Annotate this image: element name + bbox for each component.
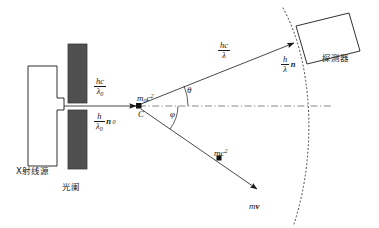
incident-energy-denominator-sub: 0 bbox=[100, 90, 103, 96]
incident-momentum-vector-sub: 0 bbox=[112, 119, 115, 125]
rest-energy-label: m0c2 bbox=[137, 88, 154, 104]
incident-momentum-denominator-sub: 0 bbox=[100, 125, 103, 131]
scattered-energy-numerator: hc bbox=[218, 41, 230, 50]
incident-momentum-vector: n bbox=[106, 117, 111, 126]
electron-energy-label: mc2 bbox=[214, 143, 228, 159]
scattered-energy-label: hc λ bbox=[218, 41, 230, 59]
electron-momentum-vector: v bbox=[256, 201, 260, 211]
incident-energy-numerator: hc bbox=[94, 77, 106, 86]
figure-vector-layer bbox=[0, 0, 379, 228]
scattered-momentum-denominator: λ bbox=[283, 64, 287, 74]
rest-energy-exponent: 2 bbox=[151, 93, 154, 99]
angle-phi-label: φ bbox=[170, 110, 175, 119]
detector-caption: 探测器 bbox=[322, 54, 350, 63]
collimator-plates bbox=[68, 44, 87, 169]
compton-scattering-figure: hc λ0 h λ0 n0 m0c2 C θ φ hc λ h λ n mc2 bbox=[0, 0, 379, 228]
scattered-momentum-vector: n bbox=[291, 60, 296, 69]
collimator-caption: 光阑 bbox=[62, 183, 80, 192]
scattered-momentum-label: h λ n bbox=[281, 55, 295, 73]
scattered-energy-denominator: λ bbox=[222, 50, 226, 60]
xray-source-caption: X射线源 bbox=[16, 167, 50, 176]
incident-momentum-numerator: h bbox=[94, 112, 105, 121]
scattered-momentum-numerator: h bbox=[281, 55, 289, 64]
incident-energy-label: hc λ0 bbox=[94, 77, 106, 96]
vertex-label: C bbox=[138, 110, 144, 119]
recoil-electron-ray bbox=[141, 109, 257, 189]
electron-energy-exponent: 2 bbox=[225, 148, 228, 154]
xray-source-body bbox=[28, 66, 64, 166]
angle-theta-label: θ bbox=[187, 86, 191, 95]
electron-momentum-label: mv bbox=[249, 196, 260, 212]
incident-momentum-label: h λ0 n0 bbox=[94, 112, 115, 131]
